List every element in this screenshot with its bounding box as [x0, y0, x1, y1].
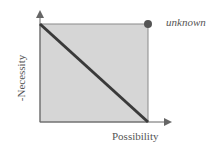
x-axis-label: Possibility [112, 130, 158, 142]
y-axis-label: -Necessity [15, 53, 27, 103]
y-axis-arrow-icon [36, 10, 44, 18]
corner-label: unknown [166, 16, 206, 28]
x-axis-arrow-icon [164, 118, 172, 126]
unknown-point [144, 20, 152, 28]
